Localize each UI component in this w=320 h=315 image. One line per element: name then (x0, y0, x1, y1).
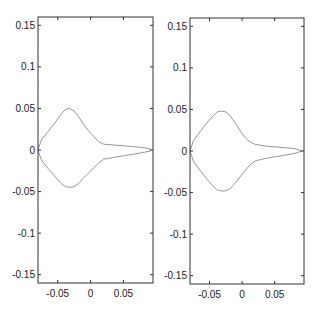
y-tick-label: 0.1 (21, 61, 35, 72)
x-tick-label: 0 (239, 289, 245, 300)
y-tick-label: -0.05 (12, 186, 35, 197)
y-tick-label: 0 (29, 145, 35, 156)
y-tick-label: 0 (181, 146, 187, 157)
lower-contour-line (38, 150, 151, 187)
y-tick-label: 0.05 (168, 104, 188, 115)
x-tick-label: 0.05 (265, 289, 285, 300)
y-tick-label: 0.05 (16, 103, 36, 114)
left-plot-panel: 0.150.10.050-0.05-0.1-0.15-0.0500.05 (12, 17, 153, 299)
axes-frame (190, 18, 304, 284)
y-tick-label: 0.15 (168, 21, 188, 32)
y-tick-label: -0.1 (18, 228, 36, 239)
y-tick-label: -0.05 (164, 187, 187, 198)
x-tick-label: 0 (88, 288, 94, 299)
axes-frame (38, 17, 153, 283)
right-plot-panel: 0.150.10.050-0.05-0.1-0.15-0.0500.05 (164, 18, 304, 300)
x-tick-label: -0.05 (198, 289, 221, 300)
y-tick-label: 0.15 (16, 20, 36, 31)
x-tick-label: 0.05 (114, 288, 134, 299)
upper-contour-line (38, 108, 151, 150)
x-tick-label: -0.05 (46, 288, 69, 299)
lower-contour-line (190, 151, 302, 191)
y-tick-label: -0.15 (164, 270, 187, 281)
y-tick-label: -0.1 (170, 229, 188, 240)
y-tick-label: 0.1 (173, 62, 187, 73)
y-tick-label: -0.15 (12, 269, 35, 280)
upper-contour-line (190, 111, 302, 151)
figure: 0.150.10.050-0.05-0.1-0.15-0.0500.05 0.1… (0, 0, 320, 315)
